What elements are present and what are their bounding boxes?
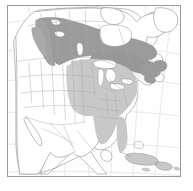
map-svg [8, 6, 180, 176]
map-frame [7, 5, 181, 177]
range-light-puerto-rico [173, 167, 180, 171]
range-light-hispaniola [156, 162, 173, 170]
range-light-jamaica [142, 168, 151, 172]
hudson-bay [100, 25, 132, 47]
map-figure [0, 0, 193, 191]
range-light-cuba [125, 153, 158, 165]
greenland-coastline [154, 8, 178, 33]
yucatan-peninsula [101, 150, 112, 161]
